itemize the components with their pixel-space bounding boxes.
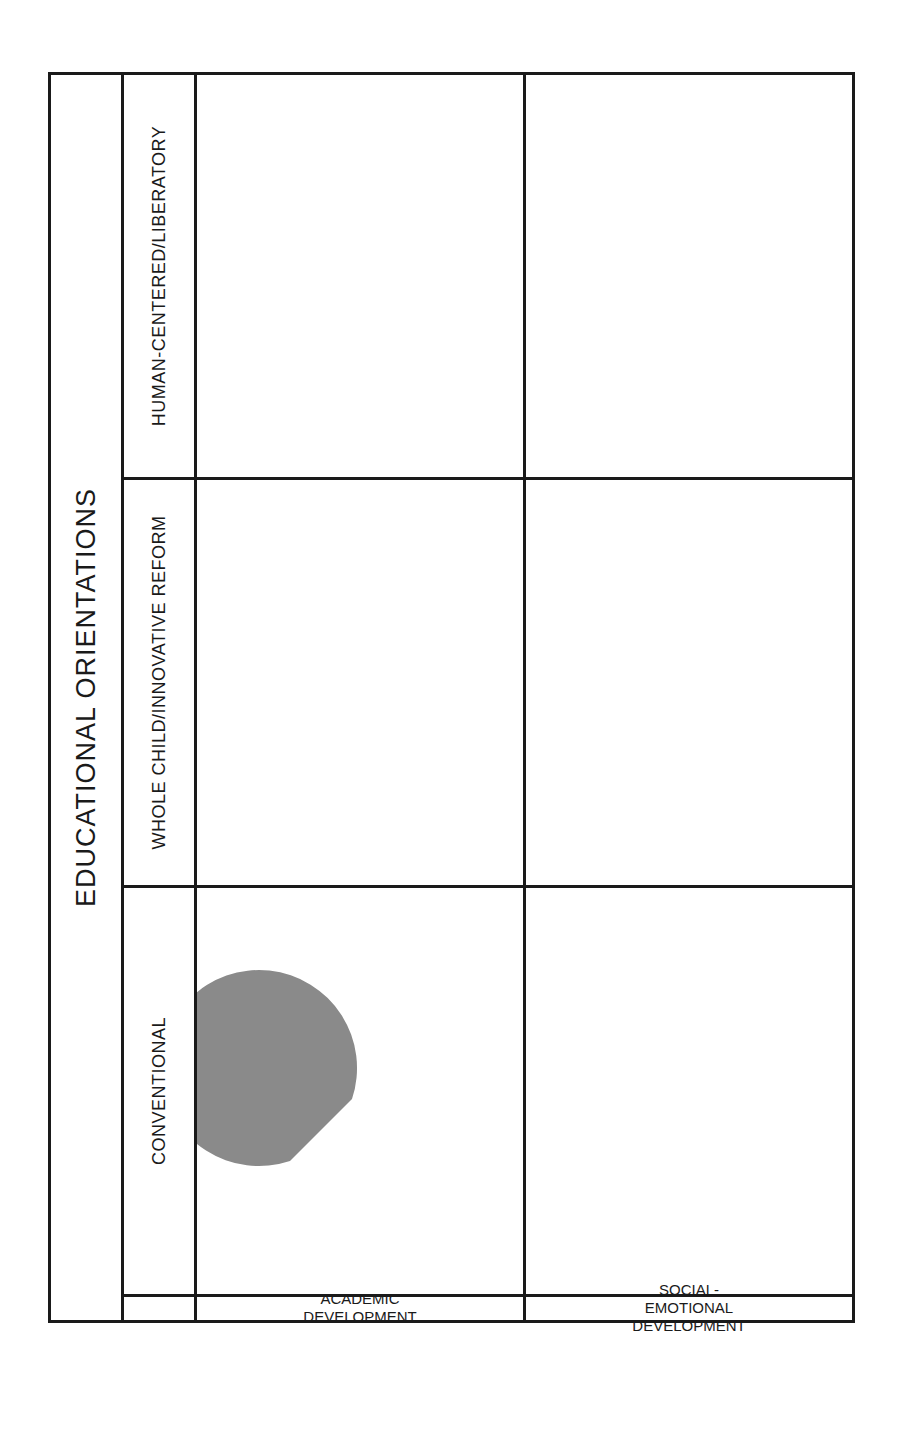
row-label-social-emotional: SOCIAL-EMOTIONAL DEVELOPMENT bbox=[526, 1297, 852, 1320]
row-divider bbox=[523, 75, 526, 1320]
row-label-academic-text: ACADEMIC DEVELOPMENT bbox=[303, 1290, 416, 1326]
column-header-conventional: CONVENTIONAL bbox=[124, 888, 194, 1294]
column-header-human-centered: HUMAN-CENTERED/LIBERATORY bbox=[124, 75, 194, 477]
educational-orientations-table: EDUCATIONAL ORIENTATIONS CONVENTIONAL WH… bbox=[48, 72, 855, 1323]
row-label-social-emotional-text: SOCIAL-EMOTIONAL DEVELOPMENT bbox=[632, 1281, 745, 1335]
column-header-whole-child: WHOLE CHILD/INNOVATIVE REFORM bbox=[124, 480, 194, 885]
table-title-row: EDUCATIONAL ORIENTATIONS bbox=[51, 75, 124, 1320]
row-label-academic: ACADEMIC DEVELOPMENT bbox=[197, 1297, 523, 1320]
table-title: EDUCATIONAL ORIENTATIONS bbox=[71, 488, 102, 907]
cell-academic-conventional bbox=[197, 888, 523, 1294]
column-divider-2 bbox=[124, 477, 852, 480]
petal-core-academics bbox=[197, 970, 357, 1166]
